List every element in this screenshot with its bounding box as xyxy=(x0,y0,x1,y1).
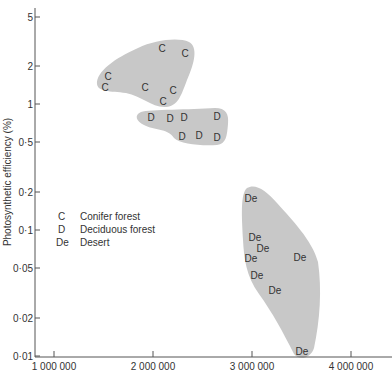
y-axis-label: Photosynthetic efficiency (%) xyxy=(2,118,13,246)
y-tick-label: 0·5 xyxy=(19,137,34,148)
data-point-c: C xyxy=(104,71,111,82)
legend-label-conifer: Conifer forest xyxy=(80,211,140,222)
cluster-regions xyxy=(97,40,320,358)
y-tick-label: 0·2 xyxy=(19,187,34,198)
y-tick-label: 0·05 xyxy=(13,263,33,274)
y-tick-label: 1 xyxy=(27,99,33,110)
chart-canvas: 5210·50·20·10·050·020·01 1 000 0002 000 … xyxy=(0,0,392,380)
data-point-c: C xyxy=(169,85,176,96)
data-point-d: D xyxy=(195,130,202,141)
y-tick-label: 5 xyxy=(27,12,33,23)
legend: C Conifer forest D Deciduous forest De D… xyxy=(56,211,155,248)
data-point-de: De xyxy=(269,285,282,296)
data-point-de: De xyxy=(296,346,309,357)
x-axis-ticks: 1 000 0002 000 0003 000 0004 000 000 xyxy=(32,351,374,372)
data-point-d: D xyxy=(213,111,220,122)
data-point-d: D xyxy=(166,113,173,124)
data-point-de: De xyxy=(245,193,258,204)
y-tick-label: 0·1 xyxy=(19,225,34,236)
data-point-de: De xyxy=(249,232,262,243)
legend-label-desert: Desert xyxy=(80,237,110,248)
y-tick-label: 2 xyxy=(27,61,33,72)
data-point-c: C xyxy=(101,82,108,93)
data-point-d: D xyxy=(147,112,154,123)
legend-symbol-conifer: C xyxy=(58,211,65,222)
x-tick-label: 2 000 000 xyxy=(131,361,176,372)
data-point-de: De xyxy=(245,253,258,264)
legend-label-deciduous: Deciduous forest xyxy=(80,224,155,235)
x-tick-label: 3 000 000 xyxy=(230,361,275,372)
x-tick-label: 4 000 000 xyxy=(329,361,374,372)
legend-symbol-deciduous: D xyxy=(58,224,65,235)
data-point-de: De xyxy=(294,252,307,263)
y-tick-label: 0·01 xyxy=(13,351,33,362)
y-axis-ticks: 5210·50·20·10·050·020·01 xyxy=(13,12,40,362)
data-point-c: C xyxy=(181,48,188,59)
x-tick-label: 1 000 000 xyxy=(32,361,77,372)
data-point-de: De xyxy=(257,243,270,254)
legend-symbol-desert: De xyxy=(56,237,69,248)
data-point-d: D xyxy=(180,112,187,123)
data-point-d: D xyxy=(213,132,220,143)
y-tick-label: 0·02 xyxy=(13,313,33,324)
data-point-c: C xyxy=(159,96,166,107)
data-point-c: C xyxy=(141,82,148,93)
data-point-d: D xyxy=(178,131,185,142)
data-point-de: De xyxy=(251,270,264,281)
data-point-c: C xyxy=(158,43,165,54)
